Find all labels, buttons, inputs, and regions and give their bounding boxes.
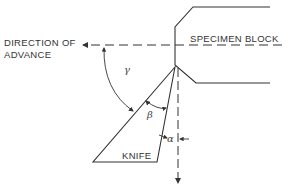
knife-triangle bbox=[93, 67, 175, 162]
beta-label: β bbox=[147, 109, 153, 120]
specimen-block-label: SPECIMEN BLOCK bbox=[190, 33, 279, 44]
direction-label-line1: DIRECTION OF bbox=[4, 37, 76, 48]
alpha-label: α bbox=[167, 133, 174, 144]
direction-label-line2: ADVANCE bbox=[4, 49, 51, 60]
gamma-angle-arc bbox=[104, 48, 133, 111]
gamma-label: γ bbox=[124, 64, 130, 75]
beta-angle-arc bbox=[146, 101, 166, 108]
microtome-knife-diagram: DIRECTION OF ADVANCE SPECIMEN BLOCK KNIF… bbox=[0, 0, 291, 186]
alpha-angle-arrows bbox=[159, 135, 189, 139]
knife-label: KNIFE bbox=[122, 150, 151, 161]
